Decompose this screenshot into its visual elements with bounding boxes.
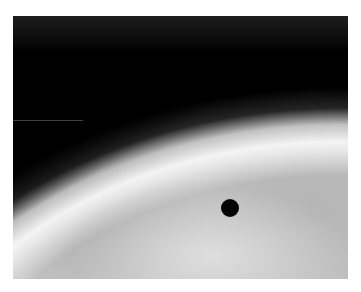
black-dot-marker <box>221 199 239 217</box>
upper-shadow <box>13 16 348 279</box>
planet-limb-photo <box>13 16 348 279</box>
scan-line-artifact <box>13 120 83 121</box>
